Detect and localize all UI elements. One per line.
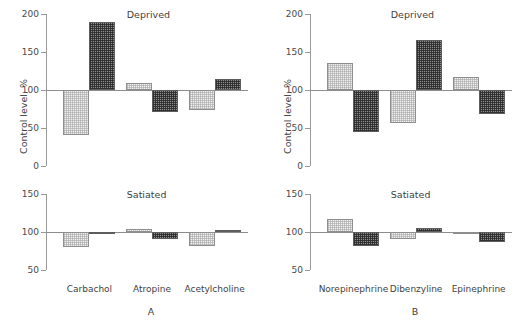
category-label-norepinephrine: Norepinephrine bbox=[319, 284, 389, 294]
bar-carbachol-light bbox=[63, 90, 89, 135]
bar-norepinephrine-light bbox=[327, 63, 353, 90]
y-tick bbox=[41, 270, 46, 271]
bar-epinephrine-light bbox=[453, 77, 479, 90]
bar-dibenzyline-light bbox=[390, 232, 416, 239]
bar-carbachol-dark bbox=[89, 232, 115, 234]
panel-letter-a: A bbox=[148, 306, 155, 317]
y-tick-label: 200 bbox=[22, 10, 39, 19]
y-tick-label: 50 bbox=[28, 266, 39, 275]
y-tick bbox=[305, 270, 310, 271]
bar-carbachol-dark bbox=[89, 22, 115, 90]
y-tick-label: 150 bbox=[286, 48, 303, 57]
bar-epinephrine-dark bbox=[479, 232, 505, 242]
y-tick-label: 100 bbox=[22, 228, 39, 237]
y-tick bbox=[41, 194, 46, 195]
bar-acetylcholine-light bbox=[189, 90, 215, 110]
bar-atropine-light bbox=[126, 83, 152, 90]
bar-atropine-dark bbox=[152, 232, 178, 239]
bar-dibenzyline-dark bbox=[416, 228, 442, 232]
bar-norepinephrine-dark bbox=[353, 90, 379, 132]
panel-letter-b: B bbox=[412, 306, 419, 317]
y-tick-label: 150 bbox=[286, 190, 303, 199]
bar-norepinephrine-dark bbox=[353, 232, 379, 246]
y-axis-label: Control level, % bbox=[18, 79, 29, 154]
y-tick-label: 50 bbox=[292, 266, 303, 275]
y-tick bbox=[41, 52, 46, 53]
chart-subtitle: Deprived bbox=[127, 9, 170, 20]
category-label-atropine: Atropine bbox=[133, 284, 171, 294]
category-label-dibenzyline: Dibenzyline bbox=[390, 284, 443, 294]
bar-atropine-dark bbox=[152, 90, 178, 112]
y-tick-label: 100 bbox=[286, 228, 303, 237]
bar-atropine-light bbox=[126, 229, 152, 232]
bar-acetylcholine-light bbox=[189, 232, 215, 246]
y-axis-label: Control level, % bbox=[282, 79, 293, 154]
y-tick bbox=[305, 14, 310, 15]
category-label-epinephrine: Epinephrine bbox=[452, 284, 506, 294]
y-tick bbox=[305, 166, 310, 167]
chart-subtitle: Satiated bbox=[391, 189, 431, 200]
y-tick-label: 200 bbox=[286, 10, 303, 19]
category-label-acetylcholine: Acetylcholine bbox=[185, 284, 245, 294]
bar-carbachol-light bbox=[63, 232, 89, 247]
y-tick-label: 0 bbox=[297, 162, 303, 171]
bar-acetylcholine-dark bbox=[215, 79, 241, 90]
y-tick bbox=[41, 166, 46, 167]
y-tick-label: 50 bbox=[292, 124, 303, 133]
y-tick-label: 0 bbox=[33, 162, 39, 171]
y-tick-label: 50 bbox=[28, 124, 39, 133]
bar-norepinephrine-light bbox=[327, 219, 353, 232]
y-tick-label: 150 bbox=[22, 48, 39, 57]
bar-epinephrine-dark bbox=[479, 90, 505, 114]
bar-dibenzyline-light bbox=[390, 90, 416, 123]
category-label-carbachol: Carbachol bbox=[67, 284, 112, 294]
figure-root: 050100150200DeprivedControl level, %5010… bbox=[0, 0, 528, 324]
y-tick bbox=[305, 194, 310, 195]
y-tick bbox=[305, 128, 310, 129]
y-tick bbox=[305, 52, 310, 53]
chart-subtitle: Deprived bbox=[391, 9, 434, 20]
chart-subtitle: Satiated bbox=[127, 189, 167, 200]
bar-dibenzyline-dark bbox=[416, 40, 442, 90]
bar-acetylcholine-dark bbox=[215, 230, 241, 232]
y-tick bbox=[41, 14, 46, 15]
y-tick bbox=[41, 128, 46, 129]
bar-epinephrine-light bbox=[453, 232, 479, 234]
y-tick-label: 150 bbox=[22, 190, 39, 199]
